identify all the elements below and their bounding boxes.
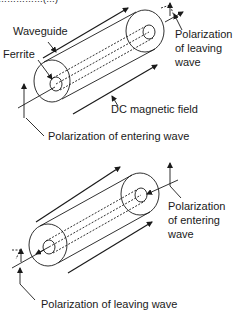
rotation-indicator-bottom — [12, 250, 20, 259]
leaving-wave-arrow-bottom — [36, 247, 49, 254]
label-dc-magnetic-field: DC magnetic field — [111, 103, 198, 115]
leaving-wave-axis — [165, 12, 183, 22]
faraday-rotation-diagram: ……………(…) — [0, 0, 235, 313]
label-polarization-entering-1: Polarization — [168, 200, 225, 212]
label-polarization-leaving-1: Polarization — [175, 28, 232, 40]
entering-leader-bottom — [170, 186, 181, 198]
leaving-leader-bottom — [20, 284, 35, 300]
ferrite-rod-bottom — [43, 188, 147, 254]
label-polarization-leaving-2: of leaving — [175, 42, 222, 54]
bottom-waveguide-diagram: Polarization of entering wave Polarizati… — [12, 163, 225, 310]
waveguide-cylinder-bottom — [29, 173, 159, 266]
label-waveguide: Waveguide — [13, 25, 68, 37]
entering-leader — [26, 118, 44, 136]
label-polarization-leaving-bottom: Polarization of leaving wave — [41, 298, 177, 310]
caption-fragment: ……………(…) — [0, 0, 58, 4]
waveguide-leader — [48, 42, 56, 52]
ferrite-leader — [38, 60, 52, 79]
label-polarization-entering-2: of entering — [168, 214, 220, 226]
entering-wave-axis-bottom — [147, 180, 178, 194]
label-polarization-entering-3: wave — [167, 228, 194, 240]
top-waveguide-diagram: ……………(…) — [0, 0, 232, 142]
rotation-indicator — [161, 5, 174, 16]
label-ferrite: Ferrite — [3, 48, 35, 60]
label-polarization-entering: Polarization of entering wave — [48, 130, 189, 142]
label-polarization-leaving-3: wave — [174, 56, 201, 68]
